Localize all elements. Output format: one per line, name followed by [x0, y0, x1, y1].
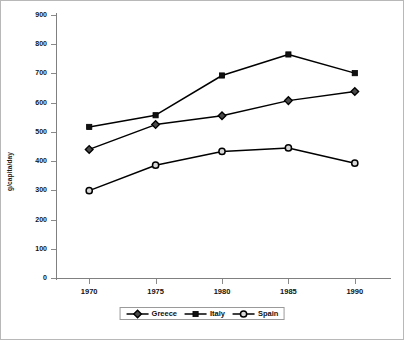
- data-point-marker: [286, 52, 291, 57]
- y-tick-label: 400: [11, 157, 47, 164]
- x-tick-mark: [89, 279, 90, 284]
- legend-label: Greece: [152, 310, 177, 318]
- series-line-greece: [89, 92, 355, 150]
- x-tick-mark: [355, 279, 356, 284]
- x-tick-label: 1975: [136, 288, 176, 296]
- x-tick-mark: [288, 279, 289, 284]
- legend-entry-spain[interactable]: Spain: [232, 309, 278, 319]
- series-line-italy: [89, 54, 355, 126]
- y-tick-label: 600: [11, 99, 47, 106]
- data-point-marker: [352, 160, 358, 166]
- data-point-marker: [352, 71, 357, 76]
- y-axis-line: [56, 13, 57, 280]
- y-tick-label: 500: [11, 128, 47, 135]
- y-axis-title: g/capita/day: [1, 1, 17, 340]
- x-tick-mark: [156, 279, 157, 284]
- x-tick-label: 1980: [202, 288, 242, 296]
- y-tick-mark: [51, 132, 56, 133]
- circle-marker-icon: [232, 309, 256, 319]
- data-point-marker: [218, 112, 226, 120]
- y-tick-mark: [51, 220, 56, 221]
- data-point-marker: [219, 73, 224, 78]
- data-point-marker: [219, 148, 225, 154]
- y-tick-mark: [51, 161, 56, 162]
- series-greece: [85, 88, 358, 153]
- y-tick-label: 300: [11, 186, 47, 193]
- data-point-marker: [153, 162, 159, 168]
- series-spain: [86, 145, 358, 194]
- y-tick-mark: [51, 103, 56, 104]
- y-tick-mark: [51, 44, 56, 45]
- x-tick-mark: [222, 279, 223, 284]
- x-tick-label: 1985: [268, 288, 308, 296]
- legend-label: Italy: [210, 310, 225, 318]
- series-line-spain: [89, 148, 355, 191]
- chart-figure: g/capita/day 900800700600500400300200100…: [0, 0, 404, 340]
- y-tick-label: 700: [11, 69, 47, 76]
- x-tick-label: 1970: [69, 288, 109, 296]
- data-point-marker: [285, 97, 293, 105]
- data-point-marker: [153, 113, 158, 118]
- chart-legend: GreeceItalySpain: [120, 307, 285, 320]
- y-tick-label: 900: [11, 11, 47, 18]
- y-tick-mark: [51, 278, 56, 279]
- diamond-marker-icon: [126, 309, 150, 319]
- x-tick-label: 1990: [335, 288, 375, 296]
- series-italy: [87, 52, 358, 130]
- data-point-marker: [351, 88, 359, 96]
- y-tick-mark: [51, 15, 56, 16]
- data-point-marker: [86, 188, 92, 194]
- y-tick-label: 0: [11, 274, 47, 281]
- y-tick-label: 100: [11, 245, 47, 252]
- y-tick-mark: [51, 249, 56, 250]
- y-tick-label: 800: [11, 40, 47, 47]
- y-tick-mark: [51, 73, 56, 74]
- square-marker-icon: [184, 309, 208, 319]
- y-tick-label: 200: [11, 216, 47, 223]
- data-point-marker: [87, 124, 92, 129]
- y-tick-mark: [51, 190, 56, 191]
- legend-label: Spain: [258, 310, 278, 318]
- x-axis-line: [51, 278, 391, 279]
- legend-entry-italy[interactable]: Italy: [184, 309, 225, 319]
- data-point-marker: [285, 145, 291, 151]
- legend-entry-greece[interactable]: Greece: [126, 309, 177, 319]
- data-point-marker: [152, 121, 160, 129]
- data-point-marker: [85, 146, 93, 154]
